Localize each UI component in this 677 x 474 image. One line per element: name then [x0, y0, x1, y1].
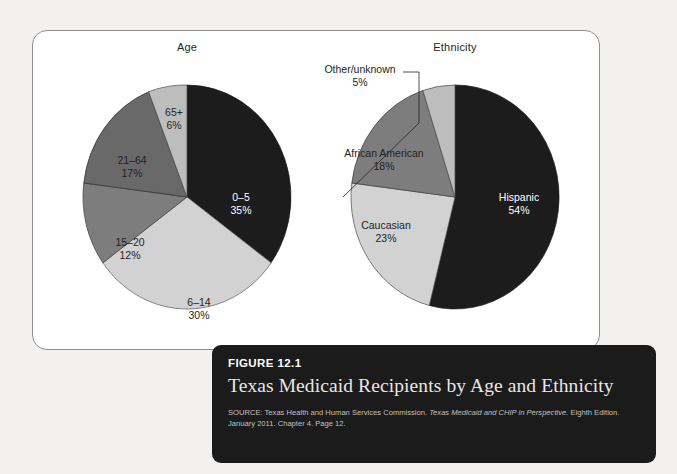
age-label-21-64-category: 21–64 — [117, 154, 146, 166]
age-label-6-14-value: 30% — [188, 309, 209, 321]
figure-source-publication: Texas Medicaid and CHIP in Perspective. — [429, 408, 568, 417]
figure-source-prefix: SOURCE: Texas Health and Human Services … — [228, 408, 429, 417]
age-label-21-64: 21–64 17% — [99, 154, 165, 179]
ethnicity-label-other-unknown: Other/unknown 5% — [305, 63, 415, 88]
age-label-0-5: 0–5 35% — [211, 191, 271, 216]
figure-panel: Age 0–5 35% 6–14 30% 15–20 — [32, 30, 600, 350]
ethnicity-pie-chart: Ethnicity Hispanic 54% Caucasian 23% — [315, 31, 595, 351]
ethnicity-label-hispanic: Hispanic 54% — [487, 191, 551, 216]
ethnicity-label-hispanic-category: Hispanic — [499, 191, 539, 203]
ethnicity-label-hispanic-value: 54% — [508, 204, 529, 216]
age-pie-graphic — [47, 57, 327, 337]
ethnicity-label-caucasian-category: Caucasian — [361, 219, 411, 231]
figure-source: SOURCE: Texas Health and Human Services … — [228, 407, 640, 429]
age-chart-title: Age — [47, 41, 327, 53]
ethnicity-label-african-american-value: 18% — [373, 160, 394, 172]
age-pie-chart: Age 0–5 35% 6–14 30% 15–20 — [47, 31, 327, 351]
age-label-21-64-value: 17% — [121, 167, 142, 179]
ethnicity-label-caucasian: Caucasian 23% — [349, 219, 423, 244]
ethnicity-label-other-unknown-category: Other/unknown — [324, 63, 395, 75]
age-label-15-20-category: 15–20 — [115, 236, 144, 248]
age-label-65-plus-value: 6% — [166, 119, 181, 131]
figure-caption-block: FIGURE 12.1 Texas Medicaid Recipients by… — [212, 345, 656, 463]
age-label-15-20: 15–20 12% — [97, 236, 163, 261]
ethnicity-label-other-unknown-value: 5% — [352, 76, 367, 88]
age-label-65-plus-category: 65+ — [165, 106, 183, 118]
ethnicity-label-african-american-category: African American — [344, 147, 423, 159]
ethnicity-label-african-american: African American 18% — [329, 147, 439, 172]
age-label-15-20-value: 12% — [119, 249, 140, 261]
figure-title: Texas Medicaid Recipients by Age and Eth… — [228, 374, 640, 397]
ethnicity-chart-title: Ethnicity — [315, 41, 595, 53]
age-label-65-plus: 65+ 6% — [151, 106, 197, 131]
age-label-6-14-category: 6–14 — [187, 296, 210, 308]
age-label-6-14: 6–14 30% — [169, 296, 229, 321]
ethnicity-label-caucasian-value: 23% — [375, 232, 396, 244]
figure-number: FIGURE 12.1 — [228, 357, 640, 369]
age-label-0-5-category: 0–5 — [232, 191, 250, 203]
age-label-0-5-value: 35% — [230, 204, 251, 216]
ethnicity-pie-graphic — [315, 57, 595, 337]
